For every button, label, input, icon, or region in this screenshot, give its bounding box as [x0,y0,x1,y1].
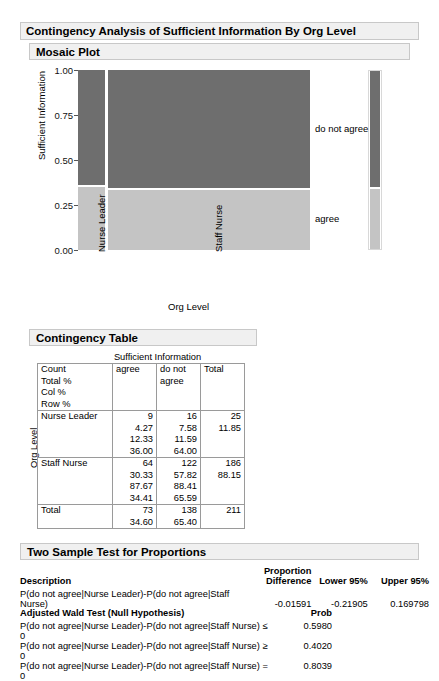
x-axis-label: Org Level [168,301,209,312]
y-axis-label: Sufficient Information [36,71,47,160]
table-row-label-Nurse-Leader: Nurse Leader [38,411,113,458]
cell-do-not-agree: 13865.40 [157,505,201,529]
table-row: Nurse Leader94.2712.3336.00167.5811.5964… [38,411,245,458]
contingency-table: Sufficient Information CountTotal %Col %… [37,352,245,529]
table-row-label-Total: Total [38,505,113,529]
cell-agree: 6430.3387.6734.41 [113,458,157,505]
y-tick-1-00: 1.00 [55,65,74,76]
cell-total: 18688.15 [201,458,245,505]
wald-test-row: P(do not agree|Nurse Leader)-P(do not ag… [20,661,429,681]
mosaic-column-staff-nurse[interactable] [108,70,310,250]
table-row-label-Staff-Nurse: Staff Nurse [38,458,113,505]
scale-segment-agree [370,189,380,249]
two-sample-header-line1: Proportion [20,566,429,576]
mosaic-plot: 0.000.250.500.751.00 [78,70,310,250]
cell-do-not-agree: 12257.8288.4165.59 [157,458,201,505]
two-sample-data-row: P(do not agree|Nurse Leader)-P(do not ag… [20,589,429,609]
y-tick-0-00: 0.00 [55,245,74,256]
y-tick-mark [74,115,78,116]
cell-agree: 7334.60 [113,505,157,529]
lower-ci-header: Lower 95% [311,576,367,586]
y-tick-mark [74,70,78,71]
y-tick-0-25: 0.25 [55,200,74,211]
scale-segment-do-not-agree [370,71,380,187]
legend-label-do-not-agree: do not agree [315,123,368,134]
mosaic-segment-do-not-agree[interactable] [78,70,105,185]
wald-rows: P(do not agree|Nurse Leader)-P(do not ag… [20,621,429,681]
upper-ci-header: Upper 95% [368,576,429,586]
y-tick-mark [74,250,78,251]
x-tick-nurse-leader: Nurse Leader [96,194,107,252]
table-header-row: CountTotal %Col %Row %agreedo notagreeTo… [38,364,245,411]
wald-prob-value: 0.8039 [270,661,332,681]
y-tick-mark [74,160,78,161]
two-sample-test-title: Two Sample Test for Proportions [20,543,419,560]
x-tick-staff-nurse: Staff Nurse [213,205,224,252]
wald-header-row: Adjusted Wald Test (Null Hypothesis) Pro… [20,608,429,618]
wald-title: Adjusted Wald Test (Null Hypothesis) [20,608,270,618]
table-row: Total7334.6013865.40211 [38,505,245,529]
table-stub-legend: CountTotal %Col %Row % [38,364,113,411]
table-column-header-do-not-agree: do notagree [157,364,201,411]
mosaic-plot-title: Mosaic Plot [29,43,410,60]
table-supra-header: Sufficient Information [71,352,244,363]
y-tick-mark [74,205,78,206]
mosaic-segment-do-not-agree[interactable] [108,70,310,188]
two-sample-test-block: Proportion Description Difference Lower … [20,566,429,609]
two-sample-header-line2: Description Difference Lower 95% Upper 9… [20,576,429,586]
wald-test-row: P(do not agree|Nurse Leader)-P(do not ag… [20,621,429,641]
contingency-table-grid: CountTotal %Col %Row %agreedo notagreeTo… [37,363,245,529]
wald-hypothesis: P(do not agree|Nurse Leader)-P(do not ag… [20,641,270,661]
difference-header: Difference [255,576,311,586]
cell-do-not-agree: 167.5811.5964.00 [157,411,201,458]
cell-total: 211 [201,505,245,529]
wald-hypothesis: P(do not agree|Nurse Leader)-P(do not ag… [20,621,270,641]
mosaic-segment-agree[interactable] [108,190,310,250]
marginal-scale-bar [368,70,382,250]
description-header: Description [20,576,255,586]
wald-prob-value: 0.5980 [270,621,332,641]
wald-test-row: P(do not agree|Nurse Leader)-P(do not ag… [20,641,429,661]
proportion-header: Proportion [255,566,311,576]
y-tick-0-75: 0.75 [55,110,74,121]
wald-prob-header: Prob [270,608,332,618]
cell-total: 2511.85 [201,411,245,458]
adjusted-wald-test-block: Adjusted Wald Test (Null Hypothesis) Pro… [20,608,429,681]
table-row: Staff Nurse6430.3387.6734.4112257.8288.4… [38,458,245,505]
contingency-table-title: Contingency Table [29,329,257,346]
cell-agree: 94.2712.3336.00 [113,411,157,458]
table-column-header-agree: agree [113,364,157,411]
hypothesis-description: P(do not agree|Nurse Leader)-P(do not ag… [20,589,255,609]
y-tick-0-50: 0.50 [55,155,74,166]
legend-label-agree: agree [315,213,339,224]
table-column-header-Total: Total [201,364,245,411]
report-title: Contingency Analysis of Sufficient Infor… [20,22,419,40]
wald-prob-value: 0.4020 [270,641,332,661]
wald-hypothesis: P(do not agree|Nurse Leader)-P(do not ag… [20,661,270,681]
